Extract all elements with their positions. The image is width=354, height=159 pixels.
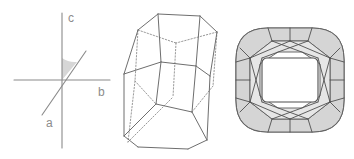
crystal-face-front-lower bbox=[156, 62, 196, 112]
axis-diagram-group: c b a bbox=[14, 11, 110, 148]
c-axis-label: c bbox=[68, 11, 74, 25]
crystal-face-front-upper bbox=[158, 14, 200, 66]
gemstone-group bbox=[236, 28, 344, 132]
beta-angle-wedge bbox=[62, 58, 77, 80]
crystal-habit-group bbox=[124, 14, 217, 149]
gem-table-facet bbox=[262, 58, 318, 102]
b-axis-label: b bbox=[98, 85, 105, 99]
a-axis-label: a bbox=[46, 116, 53, 130]
figure-canvas: c b a bbox=[0, 0, 354, 159]
crystal-figure: c b a bbox=[0, 0, 354, 159]
